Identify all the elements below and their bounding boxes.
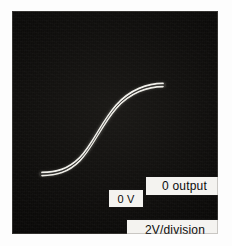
screenshot-root: 0 V 0 output 2V/division (0, 0, 232, 246)
volts-per-division-label-text: 2V/division (145, 223, 205, 235)
volts-per-division-label: 2V/division (126, 219, 218, 234)
zero-volts-label: 0 V (108, 189, 144, 208)
trace-glow (42, 85, 163, 174)
zero-volts-label-text: 0 V (117, 193, 134, 205)
zero-output-label-text: 0 output (162, 179, 207, 193)
zero-output-label: 0 output (145, 176, 218, 196)
oscilloscope-screen: 0 V 0 output 2V/division (12, 11, 218, 234)
